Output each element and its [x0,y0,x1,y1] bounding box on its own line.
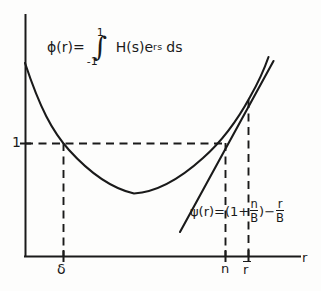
phi-integrand-exponent: rs [153,42,162,52]
phi-differential: ds [166,40,182,54]
x-axis-label: r [302,251,307,264]
fraction-r-over-b: r B [276,198,284,224]
psi-formula-middle: )− [259,205,275,218]
x-tick-label-rbar-text: r [243,262,248,277]
psi-formula: ψ(r)=(1+ n B )− r B [190,198,285,224]
psi-formula-lhs: ψ(r)=(1+ [190,205,249,218]
fraction-numerator: r [278,198,283,210]
fraction-denominator: B [276,210,284,224]
integral-lower-limit: -1 [87,56,98,67]
fraction-denominator: B [250,210,258,224]
phi-formula: ϕ(r)= 1 ∫ -1 H(s)ers ds [47,36,183,57]
integral-group: 1 ∫ -1 [86,36,114,57]
x-tick-label-n: n [221,262,229,275]
phi-curve [25,57,269,194]
x-tick-label-delta: δ [57,262,66,276]
fraction-n-over-b: n B [250,198,258,224]
math-figure: ϕ(r)= 1 ∫ -1 H(s)ers ds ψ(r)=(1+ n B )− … [0,0,321,291]
y-tick-label-one: 1 [12,135,21,149]
phi-formula-lhs: ϕ(r)= [47,40,85,54]
fraction-numerator: n [251,198,258,210]
x-tick-label-rbar: r [243,261,251,276]
phi-integrand: H(s)e [116,40,153,54]
